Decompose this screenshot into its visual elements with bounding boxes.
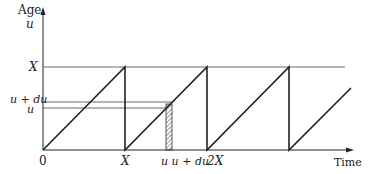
age-sawtooth-diagram: Age u X u + du u 0 X u u + du 2X Time xyxy=(0,0,369,174)
x-axis-arrow-icon xyxy=(346,148,354,153)
x-label-x: X xyxy=(121,155,130,167)
y-axis xyxy=(41,7,46,150)
y-label-u: u xyxy=(27,104,34,115)
x-label-2x: 2X xyxy=(207,155,223,167)
y-label-max: X xyxy=(29,61,38,73)
y-axis-title: Age xyxy=(18,4,41,16)
x-axis-title: Time xyxy=(334,157,362,168)
sawtooth-curve xyxy=(43,67,351,150)
x-label-origin: 0 xyxy=(39,155,47,167)
x-label-u-pair: u u + du xyxy=(161,156,209,167)
diagram-graphics xyxy=(0,0,369,174)
y-axis-symbol: u xyxy=(26,18,34,30)
x-axis xyxy=(43,148,354,153)
hatched-strip xyxy=(166,104,172,150)
